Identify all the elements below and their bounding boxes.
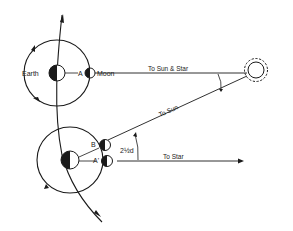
earth-bottom-icon [61, 151, 79, 169]
angle-arc-moon [135, 134, 138, 160]
earth-orbit-path [57, 15, 102, 222]
to-sun-and-star-label: To Sun & Star [148, 65, 189, 72]
earth-top-icon [49, 65, 65, 81]
moon-orbit-arrow-top2-icon [33, 97, 40, 102]
point-b-label: B [91, 141, 96, 148]
angle-arrow-moon-icon [133, 132, 137, 137]
moon-b-icon [100, 140, 111, 151]
moon-a-prime-icon [102, 156, 113, 167]
point-a-label: A [78, 70, 83, 77]
point-a-prime-label: A' [93, 157, 99, 164]
moon-top-icon [85, 68, 95, 78]
orbit-arrow-bottom-icon [94, 210, 101, 217]
earth-label: Earth [22, 70, 39, 77]
to-star-arrow-icon [238, 159, 244, 164]
to-sun-label: To Sun [158, 103, 180, 118]
moon-orbit-diagram: Earth A Moon To Sun & Star To Sun B A' [0, 0, 293, 231]
angle-arrow-sun-icon [219, 89, 223, 92]
moon-label: Moon [97, 70, 115, 77]
to-star-label: To Star [163, 153, 184, 160]
sun-icon [245, 59, 268, 82]
angle-label: 2½d [120, 147, 134, 154]
moon-orbit-arrow-top-icon [31, 45, 35, 52]
angle-arc-sun [218, 74, 221, 89]
earth-moon-b-line [79, 148, 99, 157]
